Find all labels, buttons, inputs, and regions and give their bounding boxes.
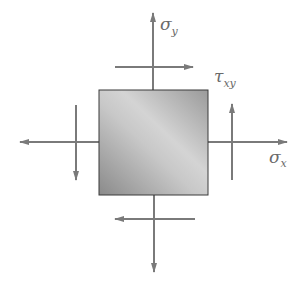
- tau-xy-label: τxy: [214, 66, 237, 90]
- stress-element-diagram: σy τxy σx: [0, 0, 306, 284]
- sigma-x-label: σx: [269, 147, 288, 170]
- sigma-y-label: σy: [160, 14, 179, 38]
- stress-element: [99, 90, 208, 195]
